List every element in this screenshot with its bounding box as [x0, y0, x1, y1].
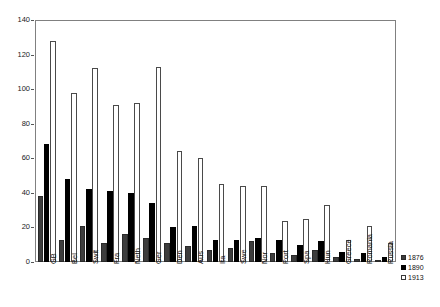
bar-aus-1913 [198, 158, 204, 262]
bar-group [143, 20, 161, 262]
bar-den-1876 [164, 243, 170, 262]
bar-group [249, 20, 267, 262]
bar-group [333, 20, 351, 262]
legend-label: 1890 [408, 264, 424, 272]
y-axis-tick-label: 140 [0, 16, 30, 24]
legend-item: 1890 [401, 263, 440, 272]
bar-fra-1913 [113, 105, 119, 262]
bars-layer [36, 20, 395, 262]
bar-group [270, 20, 288, 262]
bar-hun-1876 [312, 250, 318, 262]
bar-group [80, 20, 98, 262]
x-axis-label: Russia [387, 241, 395, 264]
bar-fra-1890 [107, 191, 113, 262]
bar-swit-1876 [80, 226, 86, 262]
bar-group [375, 20, 393, 262]
bar-spa-1876 [291, 255, 297, 262]
bar-den-1913 [177, 151, 183, 262]
y-axis-tick-mark [31, 124, 34, 125]
x-axis-label: GB [50, 253, 58, 264]
bar-group [228, 20, 246, 262]
y-axis-tick-label: 40 [0, 189, 30, 197]
bar-greece-1876 [333, 257, 339, 262]
bar-gb-1876 [38, 196, 44, 262]
bar-aus-1876 [185, 246, 191, 262]
bar-group [312, 20, 330, 262]
legend-label: 1876 [408, 254, 424, 262]
x-axis-label: Greece [345, 239, 353, 264]
legend-swatch-icon [401, 265, 406, 270]
y-axis: 020406080100120140 [0, 14, 35, 269]
bar-bel-1890 [65, 179, 71, 262]
bar-ger-1913 [156, 67, 162, 262]
bar-swe-1876 [228, 248, 234, 262]
bar-neth-1913 [134, 103, 140, 262]
bar-group [38, 20, 56, 262]
bar-group [354, 20, 372, 262]
x-axis-label: Romania [366, 234, 374, 264]
x-axis-label: Den [176, 250, 184, 264]
x-axis-label: Neth [134, 248, 142, 264]
y-axis-tick-mark [31, 193, 34, 194]
bar-group [185, 20, 203, 262]
bar-group [291, 20, 309, 262]
x-axis-label: Fra [113, 253, 121, 264]
y-axis-tick-label: 20 [0, 223, 30, 231]
bar-neth-1876 [122, 234, 128, 262]
bar-gb-1890 [44, 144, 50, 262]
bar-gb-1913 [50, 41, 56, 262]
y-axis-tick-mark [31, 89, 34, 90]
y-axis-tick-label: 100 [0, 85, 30, 93]
y-axis-tick-label: 80 [0, 120, 30, 128]
bar-bel-1876 [59, 240, 65, 262]
y-axis-tick-mark [31, 20, 34, 21]
y-axis-tick-label: 60 [0, 154, 30, 162]
y-axis-tick-mark [31, 158, 34, 159]
y-axis-tick-label: 0 [0, 258, 30, 266]
bar-group [101, 20, 119, 262]
bar-nor-1913 [261, 186, 267, 262]
x-axis-label: Ita [219, 256, 227, 264]
legend-item: 1913 [401, 273, 440, 282]
bar-chart: 020406080100120140 GBBelSwitFraNethGerDe… [0, 0, 440, 307]
x-axis-label: Port [282, 250, 290, 264]
bar-group [207, 20, 225, 262]
bar-port-1876 [270, 253, 276, 262]
legend-label: 1913 [408, 274, 424, 282]
bar-group [59, 20, 77, 262]
bar-ita-1876 [207, 250, 213, 262]
legend-swatch-icon [401, 255, 406, 260]
x-axis-label: Ger [155, 251, 163, 264]
x-axis-label: Swe [240, 249, 248, 264]
bar-romania-1876 [354, 259, 360, 262]
x-axis-label: Nor [261, 252, 269, 264]
y-axis-tick-mark [31, 227, 34, 228]
bar-group [122, 20, 140, 262]
bar-group [164, 20, 182, 262]
bar-ita-1913 [219, 184, 225, 262]
bar-fra-1876 [101, 243, 107, 262]
y-axis-tick-label: 120 [0, 51, 30, 59]
x-axis-label: Bel [71, 253, 79, 264]
legend-swatch-icon [401, 275, 406, 280]
x-axis-label: Spa [303, 251, 311, 264]
bar-russia-1876 [375, 260, 381, 262]
x-axis-label: Hun [324, 250, 332, 264]
bar-ger-1876 [143, 238, 149, 262]
chart-legend: 187618901913 [401, 253, 440, 283]
legend-item: 1876 [401, 253, 440, 262]
x-axis-labels: GBBelSwitFraNethGerDenAusItaSweNorPortSp… [36, 264, 395, 307]
bar-nor-1876 [249, 241, 255, 262]
y-axis-tick-mark [31, 262, 34, 263]
x-axis-label: Aus [197, 251, 205, 264]
bar-swit-1913 [92, 68, 98, 262]
y-axis-tick-mark [31, 55, 34, 56]
x-axis-label: Swit [92, 250, 100, 264]
bar-bel-1913 [71, 93, 77, 262]
